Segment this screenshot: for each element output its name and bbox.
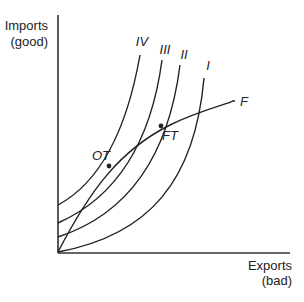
y-axis-label-line1: Imports [5,18,49,33]
indifference-curve-ii [58,65,180,237]
indifference-curve-i [58,78,204,252]
y-axis-label-line2: (good) [10,34,48,49]
indifference-curve-iv [58,55,140,205]
curve-label-i: I [206,58,210,73]
curve-label-iii: III [160,42,171,57]
curve-label-ii: II [180,47,188,62]
curve-label-f: F [240,94,249,109]
point-label-ot: OT [92,148,111,163]
indifference-curve-iii [58,60,162,223]
point-ot [107,164,112,169]
x-axis-label-line2: (bad) [262,273,292,288]
point-label-ft: FT [162,128,179,143]
x-axis-label-line1: Exports [248,258,293,273]
trade-diagram: Imports (good) Exports (bad) IV III II I… [0,0,304,302]
curve-label-iv: IV [136,34,150,49]
